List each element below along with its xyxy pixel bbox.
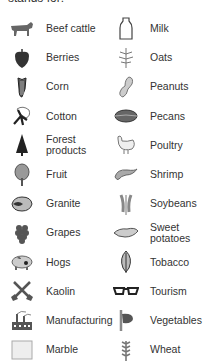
corn-icon <box>8 74 36 100</box>
legend-item-grapes: Grapes <box>8 218 108 247</box>
fruit-tree-icon <box>8 162 36 188</box>
legend-item-forest-products: Forest products <box>8 131 108 160</box>
marble-block-icon <box>8 337 36 363</box>
legend-item-marble: Marble <box>8 335 108 364</box>
vegetables-icon <box>112 307 140 333</box>
oats-icon <box>112 45 140 71</box>
legend-heading: stands for: <box>8 0 64 5</box>
legend-item-tourism: Tourism <box>112 277 207 306</box>
legend-item-oats: Oats <box>112 43 207 72</box>
legend-item-shrimp: Shrimp <box>112 160 207 189</box>
legend-item-manufacturing: Manufacturing <box>8 306 108 335</box>
legend-item-cotton: Cotton <box>8 102 108 131</box>
sweet-potato-icon <box>112 220 140 246</box>
legend-item-milk: Milk <box>112 14 207 43</box>
pig-icon <box>8 249 36 275</box>
cow-icon <box>8 16 36 42</box>
legend-item-kaolin: Kaolin <box>8 277 108 306</box>
wheat-icon <box>112 337 140 363</box>
legend-item-corn: Corn <box>8 72 108 101</box>
legend-item-hogs: Hogs <box>8 248 108 277</box>
legend-item-poultry: Poultry <box>112 131 207 160</box>
shrimp-icon <box>112 162 140 188</box>
grapes-icon <box>8 220 36 246</box>
legend-item-sweet-potatoes: Sweet potatoes <box>112 218 207 247</box>
legend-item-fruit: Fruit <box>8 160 108 189</box>
legend-item-soybeans: Soybeans <box>112 189 207 218</box>
tobacco-leaf-icon <box>112 249 140 275</box>
legend-item-wheat: Wheat <box>112 335 207 364</box>
cotton-icon <box>8 103 36 129</box>
legend-right-column: Milk Oats Peanuts Pecans Poultry Shrimp … <box>112 14 207 364</box>
legend-item-tobacco: Tobacco <box>112 248 207 277</box>
granite-icon <box>8 191 36 217</box>
legend-item-granite: Granite <box>8 189 108 218</box>
legend-item-beef-cattle: Beef cattle <box>8 14 108 43</box>
legend-left-column: Beef cattle Berries Corn Cotton Forest p… <box>8 14 108 364</box>
shovels-icon <box>8 278 36 304</box>
berry-icon <box>8 45 36 71</box>
sunglasses-icon <box>112 278 140 304</box>
factory-icon <box>8 307 36 333</box>
chicken-icon <box>112 132 140 158</box>
legend-item-pecans: Pecans <box>112 102 207 131</box>
legend-item-berries: Berries <box>8 43 108 72</box>
milk-bottle-icon <box>112 16 140 42</box>
peanut-icon <box>112 74 140 100</box>
pecan-icon <box>112 103 140 129</box>
soybean-icon <box>112 191 140 217</box>
legend-item-vegetables: Vegetables <box>112 306 207 335</box>
legend-item-peanuts: Peanuts <box>112 72 207 101</box>
tree-icon <box>8 132 36 158</box>
